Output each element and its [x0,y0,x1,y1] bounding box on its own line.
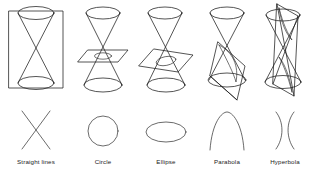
panel-straight-lines: Straight lines [0,0,72,182]
cone-svg-straight-lines [0,0,72,108]
conic-sections-figure: Straight lines Circle [0,0,314,182]
cone-svg-circle [72,0,134,108]
hyperbola-branch-left [276,112,282,149]
upper-base-ellipse [18,7,54,20]
label-parabola: Parabola [198,157,256,173]
panel-circle: Circle [72,0,134,182]
curve-svg-straight-lines [0,106,72,154]
cone-svg-hyperbola [256,0,314,108]
ellipse-outline [146,122,186,142]
plane-lower-edge [210,76,237,100]
cone-generator-left [86,13,122,85]
curve-parabola [198,106,256,154]
cone-diagram-straight-lines [0,0,72,108]
upper-base-ellipse [86,7,120,19]
circle-outline [88,116,118,146]
cutting-plane-horizontal [78,50,128,62]
curve-svg-circle [72,106,134,154]
label-ellipse: Ellipse [134,157,198,173]
label-circle: Circle [72,157,134,173]
cone-diagram-circle [72,0,134,108]
label-straight-lines: Straight lines [0,157,72,173]
lower-base-ellipse [265,76,301,89]
curve-hyperbola [256,106,314,154]
cone-svg-parabola [198,0,256,108]
lower-base-ellipse [18,77,54,90]
upper-base-ellipse [210,7,244,19]
curve-circle [72,106,134,154]
label-hyperbola: Hyperbola [256,157,314,173]
cone-generator-right [209,13,244,80]
curve-svg-parabola [198,106,256,154]
cone-generator-right [147,13,182,85]
panel-parabola: Parabola [198,0,256,182]
cone-svg-ellipse [134,0,198,108]
cone-generator-right [84,13,120,85]
cone-diagram-hyperbola [256,0,314,108]
cone-generator-left [210,13,245,80]
plane-diagonal-b [273,16,298,84]
lower-base-ellipse [147,78,185,92]
curve-svg-hyperbola [256,106,314,154]
cone-diagram-ellipse [134,0,198,108]
curve-ellipse [134,106,198,154]
cone-generator-left [266,15,301,82]
parabola-outline [210,112,244,150]
curve-svg-ellipse [134,106,198,154]
panel-ellipse: Ellipse [134,0,198,182]
upper-base-ellipse [266,9,300,21]
hyperbola-branch-right [288,112,294,149]
upper-base-ellipse [148,7,182,19]
curve-straight-lines [0,106,72,154]
intersection-circle [95,53,112,59]
panel-hyperbola: Hyperbola [256,0,314,182]
lower-base-ellipse [84,78,122,92]
cone-diagram-parabola [198,0,256,108]
cutting-plane-tilted [139,49,193,72]
